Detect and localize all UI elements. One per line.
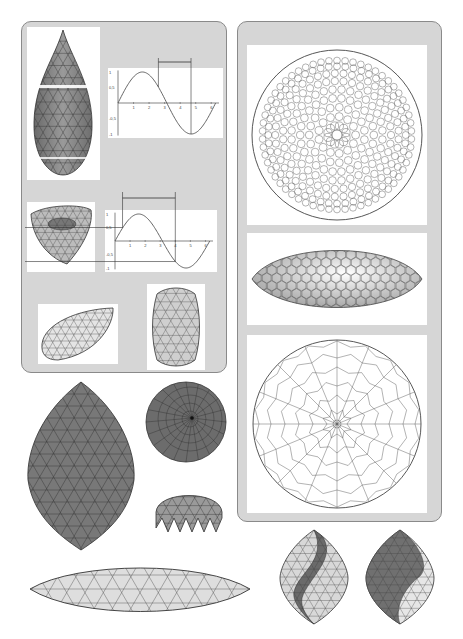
hex-cell [287, 312, 296, 322]
hex-cell [282, 242, 291, 252]
hex-cell [391, 304, 400, 314]
mesh-edge [116, 306, 118, 362]
hex-cell [411, 304, 420, 314]
hex-cell [411, 320, 420, 325]
hex-cell [322, 320, 331, 325]
hex-cell [357, 312, 366, 322]
x-tick-label: 4 [179, 105, 182, 110]
hex-cell [342, 320, 351, 325]
mesh-edge [150, 488, 155, 532]
hex-cell [282, 320, 291, 325]
hex-cell [258, 296, 267, 306]
hex-cell [406, 312, 415, 322]
hex-cell [337, 234, 346, 244]
hex-cell [267, 296, 276, 306]
hex-cell [262, 304, 271, 314]
x-tick-label: 2 [148, 105, 151, 110]
hex-cell [292, 242, 301, 252]
hex-cell [248, 250, 257, 260]
sine-chart-1-svg: 12345610,5-0,5-1 [108, 68, 223, 148]
hex-cell [411, 242, 420, 252]
hex-cell [426, 312, 427, 322]
hex-cell [248, 312, 257, 322]
voronoi-sphere-card [247, 335, 427, 513]
x-tick-label: 1 [129, 243, 132, 248]
hexagon-ellipsoid [247, 233, 427, 325]
hex-cell [267, 234, 276, 244]
mesh-edge [135, 382, 139, 550]
hex-cell [416, 250, 425, 260]
hex-cell [357, 234, 366, 244]
mesh-edge [136, 382, 139, 550]
hex-cell [391, 320, 400, 325]
hex-cell [252, 257, 261, 267]
sine-chart-2-svg: 12345610,5-0,5-1 [105, 210, 217, 280]
hex-cell [401, 304, 410, 314]
barrel-mesh [147, 284, 205, 370]
hex-cell [366, 312, 375, 322]
hex-cell [272, 320, 281, 325]
hex-cell [406, 250, 415, 260]
hex-cell [258, 312, 267, 322]
hex-cell [347, 312, 356, 322]
barrel-card [147, 284, 205, 370]
y-tick-label: -0,5 [106, 252, 114, 257]
hex-cell [421, 257, 427, 267]
hex-cell [317, 312, 326, 322]
hex-cell [327, 312, 336, 322]
egg-mesh [38, 304, 118, 364]
hexagon-sphere-card [247, 45, 427, 225]
voronoi-sphere [247, 335, 427, 513]
hex-cell [258, 234, 267, 244]
hex-cell [297, 312, 306, 322]
hex-cell [371, 320, 380, 325]
hex-cell [416, 265, 425, 275]
hex-cell [307, 234, 316, 244]
hex-cell [267, 312, 276, 322]
hex-cell [252, 242, 261, 252]
hex-cell [258, 250, 267, 260]
hex-cell [366, 234, 375, 244]
hex-cell [406, 296, 415, 306]
hex-cell [282, 304, 291, 314]
hex-cell [381, 242, 390, 252]
x-tick-label: 4 [174, 243, 177, 248]
mesh-edge [147, 285, 150, 369]
hex-cell [411, 257, 420, 267]
hex-cell [252, 304, 261, 314]
hex-cell [416, 312, 425, 322]
hex-cell [421, 304, 427, 314]
hex-cell [297, 234, 306, 244]
y-tick-label: 0,5 [109, 85, 115, 90]
hex-cell [317, 234, 326, 244]
hex-cell [386, 312, 395, 322]
hex-cell [421, 320, 427, 325]
hex-cell [292, 304, 301, 314]
hex-cell [391, 242, 400, 252]
mesh-edge [27, 29, 33, 175]
teardrop-card [27, 27, 100, 180]
hex-cell [396, 234, 405, 244]
y-tick-label: 1 [106, 212, 109, 217]
hex-cell [371, 304, 380, 314]
hex-cell [396, 296, 405, 306]
hex-cell [272, 304, 281, 314]
hex-cell [292, 320, 301, 325]
hex-cell [416, 234, 425, 244]
egg-card [38, 304, 118, 364]
x-tick-label: 3 [164, 105, 167, 110]
lemon-mesh [24, 380, 139, 552]
sine-chart-1: 12345610,5-0,5-1 [108, 68, 223, 138]
hex-cell [426, 234, 427, 244]
y-tick-label: -0,5 [109, 116, 117, 121]
hex-cell [361, 320, 370, 325]
hex-cell [302, 320, 311, 325]
hex-cell [307, 312, 316, 322]
hex-cell [262, 242, 271, 252]
hex-cell [312, 242, 321, 252]
hex-cell [252, 289, 261, 299]
hex-cell [376, 234, 385, 244]
hex-cell [351, 242, 360, 252]
hex-cell [347, 234, 356, 244]
dome-mesh [150, 480, 228, 536]
